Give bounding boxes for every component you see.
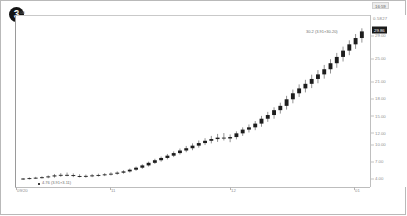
annotation-marker-dot [38,183,40,185]
price-tick-label: 12.00 [375,130,386,135]
time-tick-label: 01 [355,188,360,193]
plot-inner [16,16,370,187]
annotation-top-right: 30.2 (3.91×30.20) [306,29,338,34]
current-price-label: 29.86 [372,27,387,34]
candlestick-plot-area[interactable] [15,15,370,187]
current-time-label: 16:59 [372,2,389,9]
price-tick-label: 15.00 [375,113,386,118]
time-tick-label: 11 [111,188,115,193]
price-axis[interactable]: 0.5827 29.0025.0021.0018.0015.0012.0010.… [370,15,407,187]
price-tick-label: 10.00 [375,142,386,147]
time-tick-label: 09/20 [17,188,28,193]
price-tick-label: 7.00 [375,159,383,164]
chart-window: 3 1.00 30.2 (3.91×30.20) 4.76 (3.91×3.11… [0,0,406,215]
annotation-bottom-left: 4.76 (3.91×3.11) [42,180,71,185]
time-tick-label: 12 [231,188,236,193]
price-tick-label: 25.00 [375,56,386,61]
price-tick-label: 18.00 [375,96,386,101]
candlestick-series [16,16,370,187]
price-tick-label: 4.00 [375,176,383,181]
price-axis-header: 0.5827 [373,16,387,21]
time-axis[interactable]: 09/20111201 [15,187,370,198]
price-tick-label: 21.00 [375,79,386,84]
